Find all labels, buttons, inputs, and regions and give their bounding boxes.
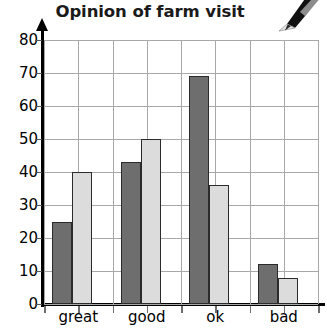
bar	[52, 222, 72, 305]
x-tick-mark	[78, 306, 80, 313]
plot-area	[44, 40, 318, 304]
bar	[209, 185, 229, 304]
y-tick-mark	[35, 73, 42, 74]
y-tick-label: 0	[8, 295, 38, 313]
bar	[258, 264, 278, 304]
gridline-vertical	[44, 40, 45, 304]
y-tick-mark	[35, 139, 42, 140]
bar	[278, 278, 298, 304]
x-tick-mark	[250, 306, 252, 313]
y-tick-label: 30	[8, 196, 38, 214]
y-tick-mark	[35, 304, 42, 305]
gridline-vertical	[113, 40, 114, 304]
y-tick-label: 80	[8, 31, 38, 49]
gridline-vertical	[181, 40, 182, 304]
y-tick-mark	[35, 205, 42, 206]
y-tick-mark	[35, 271, 42, 272]
y-tick-mark	[35, 40, 42, 41]
y-tick-label: 50	[8, 130, 38, 148]
x-tick-mark	[181, 306, 183, 313]
gridline-horizontal	[44, 304, 318, 305]
y-tick-label: 40	[8, 163, 38, 181]
y-axis-arrow	[36, 18, 48, 31]
gridline-vertical	[284, 40, 285, 304]
x-tick-mark	[113, 306, 115, 313]
bar	[72, 172, 92, 304]
bar-chart: Opinion of farm visit 01020304050607080 …	[0, 0, 327, 334]
x-tick-mark	[284, 306, 286, 313]
bar	[141, 139, 161, 304]
x-tick-mark	[147, 306, 149, 313]
x-tick-mark	[318, 306, 320, 313]
gridline-vertical	[318, 40, 319, 304]
y-tick-mark	[35, 238, 42, 239]
bar	[189, 76, 209, 304]
bar	[121, 162, 141, 304]
y-tick-label: 10	[8, 262, 38, 280]
x-tick-mark	[44, 306, 46, 313]
y-tick-label: 60	[8, 97, 38, 115]
gridline-vertical	[250, 40, 251, 304]
y-tick-label: 20	[8, 229, 38, 247]
y-tick-label: 70	[8, 64, 38, 82]
y-tick-mark	[35, 172, 42, 173]
x-tick-mark	[215, 306, 217, 313]
y-tick-mark	[35, 106, 42, 107]
